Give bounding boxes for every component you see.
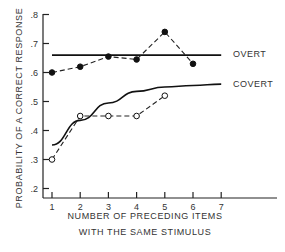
y-tick-label: .3 [30,155,38,165]
line-chart: .2.3.4.5.6.7.8 1234567 OVERT COVERT NUMB… [0,0,285,252]
covert-label: COVERT [233,79,273,89]
x-ticks [52,192,221,198]
y-tick-label: .2 [30,184,38,194]
x-axis-title-line2: WITH THE SAME STIMULUS [79,227,212,237]
y-axis-title: PROBABILITY OF A CORRECT RESPONSE [14,8,24,209]
y-tick-labels: .2.3.4.5.6.7.8 [30,10,38,194]
y-tick-label: .4 [30,126,38,136]
plot-area [49,29,221,162]
x-axis-title-line1: NUMBER OF PRECEDING ITEMS [67,211,222,221]
overt-label: OVERT [233,49,266,59]
overt-data-point [162,29,168,35]
overt-data-point [49,70,55,76]
overt-observed-line [52,32,193,73]
covert-data-point [49,157,55,163]
overt-data-point [77,64,83,70]
covert-data-point [106,113,112,119]
x-tick-label: 1 [49,202,54,212]
covert-data-point [134,113,140,119]
covert-data-point [77,113,83,119]
y-tick-label: .8 [30,10,38,20]
axes [43,14,277,198]
overt-data-point [134,57,140,63]
overt-data-point [106,54,112,60]
covert-data-point [162,93,168,99]
y-ticks [43,15,49,189]
y-tick-label: .7 [30,39,38,49]
y-tick-label: .5 [30,97,38,107]
overt-data-point [190,61,196,67]
y-tick-label: .6 [30,68,38,78]
